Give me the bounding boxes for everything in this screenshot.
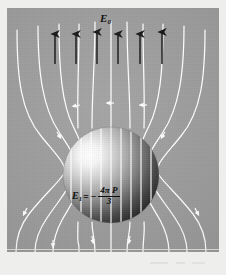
formula-symbol: E1 (72, 191, 82, 201)
formula-equals: = (83, 191, 89, 202)
scan-artifact-a (150, 262, 168, 264)
formula-fraction: 4π P 3 (98, 186, 119, 206)
external-field-arrows (55, 32, 162, 64)
scan-rule-line (7, 249, 219, 250)
formula-numerator: 4π P (98, 186, 119, 196)
external-field-symbol: E (100, 12, 108, 24)
scan-artifact-c (192, 262, 205, 264)
illustration-panel (7, 8, 219, 252)
formula-subscript: 1 (79, 195, 82, 202)
field-diagram-svg (7, 8, 219, 252)
depolarization-formula: E1 = − 4π P 3 (72, 186, 120, 206)
formula-denominator: 3 (105, 197, 114, 207)
formula-sign: − (91, 191, 97, 202)
figure-root: E0 E1 = − 4π P 3 (0, 0, 226, 275)
external-field-label: E0 (100, 13, 111, 24)
external-field-subscript: 0 (108, 18, 112, 26)
scan-artifact-b (176, 262, 185, 264)
